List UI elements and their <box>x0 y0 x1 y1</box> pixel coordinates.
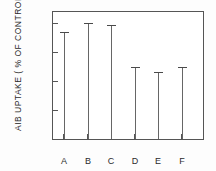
bar-cap-a <box>60 32 69 33</box>
y-tick-mark-160 <box>53 23 58 24</box>
plot-area: A B C D E F <box>52 11 204 140</box>
bar-cap-c <box>107 25 116 26</box>
bar-cap-e <box>154 72 163 73</box>
y-tick-mark-120 <box>53 52 58 53</box>
x-tick-label-d: D <box>125 156 145 166</box>
bar-b <box>88 23 89 139</box>
bar-cap-d <box>131 67 140 68</box>
bar-f <box>182 67 183 139</box>
x-tick-label-c: C <box>101 156 121 166</box>
bar-a <box>64 32 65 139</box>
bar-e <box>158 72 159 139</box>
y-tick-mark-80 <box>53 81 58 82</box>
y-tick-mark-40 <box>53 110 58 111</box>
bar-c <box>111 25 112 139</box>
x-tick-label-b: B <box>78 156 98 166</box>
x-tick-label-f: F <box>172 156 192 166</box>
y-axis-title: AIB UPTAKE ( % OF CONTROL ) <box>13 0 23 131</box>
bar-cap-b <box>84 23 93 24</box>
chart-figure: AIB UPTAKE ( % OF CONTROL ) 160 120 80 4… <box>0 0 216 171</box>
bar-cap-f <box>178 67 187 68</box>
x-tick-label-a: A <box>54 156 74 166</box>
bar-d <box>135 67 136 139</box>
x-tick-label-e: E <box>148 156 168 166</box>
